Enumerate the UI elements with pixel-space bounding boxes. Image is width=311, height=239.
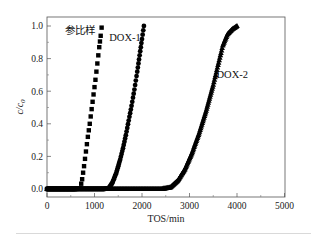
circle-marker	[131, 91, 136, 96]
bottom-divider	[16, 233, 311, 234]
y-tick-label: 0.2	[31, 152, 43, 162]
circle-marker	[133, 83, 138, 88]
x-tick-label: 2000	[133, 201, 152, 211]
square-marker	[88, 122, 92, 126]
circle-marker	[134, 74, 139, 79]
square-marker	[86, 135, 90, 139]
circle-marker	[135, 69, 140, 74]
series-annotation: DOX-1	[109, 32, 141, 43]
breakthrough-chart: 010002000300040005000 0.00.20.40.60.81.0…	[0, 0, 311, 239]
square-marker	[96, 53, 100, 57]
x-tick-label: 0	[45, 201, 50, 211]
circle-marker	[138, 45, 143, 50]
square-marker	[80, 177, 84, 181]
circle-marker	[129, 103, 134, 108]
circle-marker	[141, 28, 146, 33]
y-tick-label: 0.8	[31, 54, 43, 64]
x-tick-label: 1000	[85, 201, 104, 211]
plot-frame	[47, 17, 285, 197]
square-marker	[98, 34, 102, 38]
square-marker	[93, 78, 97, 82]
y-tick-label: 0.6	[31, 87, 43, 97]
circle-marker	[140, 32, 145, 37]
square-marker	[95, 61, 99, 65]
square-marker	[87, 128, 91, 132]
x-tick-label: 4000	[228, 201, 247, 211]
square-marker	[79, 182, 83, 186]
circle-marker	[137, 53, 142, 58]
circle-marker	[135, 65, 140, 70]
y-tick-label: 0.0	[31, 184, 43, 194]
x-tick-label: 3000	[180, 201, 199, 211]
x-tick-label: 5000	[275, 201, 294, 211]
series-annotation: 参比样	[65, 24, 95, 36]
square-marker	[89, 107, 93, 111]
square-marker	[98, 39, 102, 43]
square-marker	[81, 171, 85, 175]
circle-marker	[131, 95, 136, 100]
circle-marker	[136, 61, 141, 66]
square-marker	[91, 92, 95, 96]
x-axis-title: TOS/min	[147, 213, 184, 224]
square-marker	[84, 149, 88, 153]
square-marker	[94, 69, 98, 73]
square-marker	[99, 25, 103, 29]
circle-marker	[132, 87, 137, 92]
circle-marker	[133, 78, 138, 83]
square-marker	[97, 45, 101, 49]
circle-marker	[130, 99, 135, 104]
y-tick-label: 1.0	[31, 21, 43, 31]
y-axis-title: c/c0	[14, 99, 27, 115]
square-marker	[85, 142, 89, 146]
circle-marker	[142, 24, 147, 29]
circle-marker	[138, 49, 143, 54]
square-marker	[90, 100, 94, 104]
series-annotation: DOX-2	[217, 69, 249, 80]
square-marker	[89, 114, 93, 118]
y-tick-label: 0.4	[31, 119, 43, 129]
square-marker	[83, 157, 87, 161]
square-marker	[82, 164, 86, 168]
square-marker	[92, 85, 96, 89]
circle-marker	[137, 57, 142, 62]
